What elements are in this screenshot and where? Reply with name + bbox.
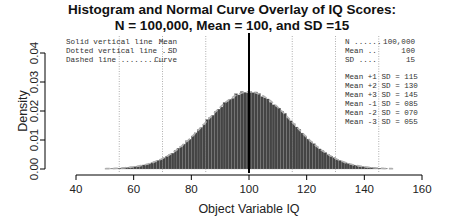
histogram-bar: [191, 136, 194, 169]
legend-line-type: Solid vertical line ..: [66, 38, 171, 46]
histogram-bar: [217, 109, 220, 169]
histogram-bar: [272, 105, 275, 169]
histogram-chart: Histogram and Normal Curve Overlay of IQ…: [0, 0, 460, 217]
histogram-bar: [203, 125, 206, 169]
histogram-bar: [261, 97, 264, 169]
histogram-bar: [324, 153, 327, 169]
x-tick-label: 140: [355, 183, 374, 195]
legend-left: Solid vertical line .. MeanDotted vertic…: [66, 38, 177, 64]
histogram-bar: [232, 98, 235, 169]
histogram-bar: [209, 118, 212, 169]
histogram-bar: [220, 107, 223, 169]
histogram-bar: [370, 168, 373, 169]
sd-value-label: Mean +3 SD = 145: [345, 91, 418, 99]
histogram-bar: [315, 147, 318, 169]
x-tick-label: 80: [185, 183, 198, 195]
chart-title: Histogram and Normal Curve Overlay of IQ…: [68, 2, 396, 17]
stat-value: 100: [401, 47, 415, 55]
x-tick-label: 160: [412, 183, 431, 195]
y-axis-label: Density: [16, 89, 30, 131]
histogram-bar: [194, 133, 197, 169]
histogram-bar: [292, 124, 295, 169]
histogram-bar: [171, 153, 174, 169]
x-axis: 406080100120140160: [70, 175, 432, 195]
histogram-bar: [134, 167, 137, 169]
histogram-bar: [186, 141, 189, 169]
histogram-bar: [336, 159, 339, 169]
legend-meaning: SD: [168, 47, 178, 55]
histogram-bar: [266, 99, 269, 169]
stat-value: 100,000: [383, 38, 415, 46]
histogram-bar: [286, 118, 289, 169]
legend-line-type: Dotted vertical line ..: [66, 47, 175, 55]
stat-label: SD ....: [345, 56, 377, 64]
x-tick-label: 120: [297, 183, 316, 195]
histogram-bar: [165, 156, 168, 169]
histogram-bar: [269, 102, 272, 169]
stat-value: 15: [406, 56, 416, 64]
stat-label: N ......: [345, 38, 381, 46]
sd-value-label: Mean +1 SD = 115: [345, 73, 418, 81]
histogram-bar: [258, 93, 261, 169]
histogram-bar: [243, 92, 246, 169]
y-tick-label: 0.03: [28, 71, 40, 93]
legend-right: N ......100,000Mean ..100SD ....15Mean +…: [345, 38, 418, 126]
sd-value-label: Mean +2 SD = 130: [345, 82, 418, 90]
histogram-bar: [312, 144, 315, 169]
histogram-bar: [188, 139, 191, 169]
histogram-bar: [252, 93, 255, 169]
histogram-bar: [281, 111, 284, 169]
sd-value-label: Mean -2 SD = 070: [345, 109, 418, 117]
histogram-bar: [183, 144, 186, 169]
histogram-bar: [301, 133, 304, 169]
sd-value-label: Mean -3 SD = 055: [345, 118, 418, 126]
x-tick-label: 40: [70, 183, 83, 195]
histogram-bar: [174, 150, 177, 169]
histogram-bar: [255, 92, 258, 169]
histogram-bar: [151, 163, 154, 169]
histogram-bar: [160, 159, 163, 169]
x-tick-label: 60: [127, 183, 140, 195]
histogram-bar: [223, 102, 226, 169]
histogram-bar: [237, 95, 240, 169]
x-tick-label: 100: [239, 183, 258, 195]
y-tick-label: 0.00: [28, 158, 40, 180]
histogram-bar: [168, 155, 171, 169]
legend-meaning: Curve: [154, 56, 177, 64]
histogram-bar: [321, 151, 324, 169]
histogram-bar: [229, 99, 232, 169]
histogram-bar: [235, 94, 238, 169]
histogram-bar: [278, 108, 281, 169]
chart-subtitle: N = 100,000, Mean = 100, and SD =15: [115, 18, 350, 33]
legend-meaning: Mean: [159, 38, 177, 46]
histogram-bar: [284, 113, 287, 169]
histogram-bar: [318, 149, 321, 169]
histogram-bar: [333, 158, 336, 169]
histogram-bar: [212, 115, 215, 169]
histogram-bar: [163, 158, 166, 169]
histogram-bar: [263, 98, 266, 169]
histogram-bar: [197, 130, 200, 169]
histogram-bar: [180, 147, 183, 169]
histogram-bar: [275, 106, 278, 169]
stat-label: Mean ..: [345, 47, 377, 55]
histogram-bar: [206, 119, 209, 169]
histogram-bar: [353, 165, 356, 169]
histogram-bar: [344, 163, 347, 169]
histogram-bar: [298, 129, 301, 169]
histogram-bar: [338, 160, 341, 169]
y-tick-label: 0.04: [28, 41, 40, 64]
x-axis-label: Object Variable IQ: [198, 202, 299, 216]
histogram-bar: [177, 148, 180, 169]
histogram-bar: [289, 121, 292, 169]
y-axis: 0.000.010.020.030.04: [28, 41, 45, 180]
histogram-bar: [214, 111, 217, 169]
histogram-bar: [226, 101, 229, 169]
histogram-bar: [304, 136, 307, 169]
histogram-bar: [200, 127, 203, 169]
sd-value-label: Mean -1 SD = 085: [345, 100, 418, 108]
histogram-bar: [327, 154, 330, 169]
histogram-bar: [330, 156, 333, 169]
histogram-bar: [310, 142, 313, 169]
histogram-bar: [240, 91, 243, 169]
